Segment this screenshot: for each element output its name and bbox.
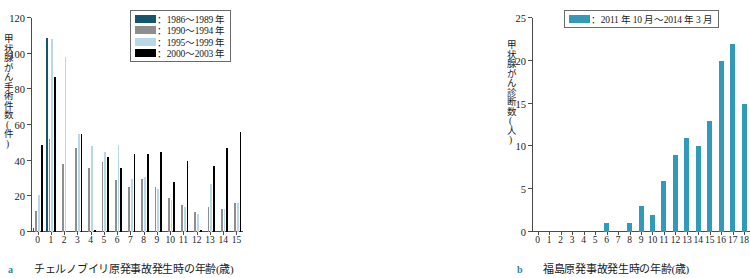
bar <box>173 182 175 232</box>
x-tick-label: 2 <box>62 235 67 245</box>
bar <box>707 121 712 232</box>
panel-tag-b: b <box>517 264 543 275</box>
x-tick-label: 5 <box>102 235 107 245</box>
y-tick <box>27 160 31 161</box>
x-tick-label: 6 <box>115 235 120 245</box>
bar <box>155 187 157 232</box>
y-tick <box>528 231 532 232</box>
bar <box>234 203 236 232</box>
y-axis-label-a: 甲状腺がん手術件数(件) <box>2 34 12 214</box>
x-tick-label: 0 <box>535 235 540 245</box>
x-tick-label: 8 <box>627 235 632 245</box>
bar <box>208 207 210 232</box>
y-tick-label: 25 <box>516 13 527 24</box>
bar <box>81 134 83 232</box>
y-tick-label: 40 <box>15 155 26 166</box>
x-tick-label: 2 <box>558 235 563 245</box>
x-tick-label: 11 <box>659 235 668 245</box>
y-tick-label: 0 <box>20 227 25 238</box>
legend-row: ：2000〜2003 年 <box>135 48 225 60</box>
y-tick <box>528 60 532 61</box>
legend-label: ：2011 年 10 月〜2014 年 3 月 <box>591 12 713 26</box>
y-tick-label: 60 <box>15 120 26 131</box>
bar <box>33 228 35 232</box>
y-tick-label: 80 <box>15 84 26 95</box>
y-tick-label: 120 <box>9 13 25 24</box>
bar <box>128 187 130 232</box>
y-tick <box>528 17 532 18</box>
legend-a: ：1986〜1989 年：1990〜1994 年：1995〜1999 年：200… <box>130 10 231 62</box>
bar <box>102 162 104 232</box>
y-axis-label-b: 甲状腺がん診断数(人) <box>505 40 515 210</box>
x-tick-label: 7 <box>128 235 133 245</box>
legend-b: ：2011 年 10 月〜2014 年 3 月 <box>564 10 719 28</box>
bar <box>41 145 43 232</box>
legend-swatch <box>135 49 156 57</box>
panel-b-fukushima: 甲状腺がん診断数(人) 0510152025012345678910111213… <box>255 0 510 278</box>
x-tick-label: 4 <box>88 235 93 245</box>
bar <box>141 179 143 233</box>
bar <box>54 77 56 232</box>
x-tick-label: 6 <box>604 235 609 245</box>
caption-text-a: チェルノブイリ原発事故発生時の年齢(歳) <box>34 260 233 276</box>
bar <box>604 223 609 232</box>
y-tick <box>27 231 31 232</box>
bar <box>200 230 202 232</box>
bar <box>120 168 122 232</box>
x-tick-label: 16 <box>717 235 727 245</box>
bar <box>91 146 93 232</box>
bar <box>224 209 226 232</box>
bar <box>696 146 701 232</box>
x-tick-label: 13 <box>682 235 692 245</box>
x-tick-label: 3 <box>75 235 80 245</box>
x-tick-label: 15 <box>232 235 242 245</box>
bar <box>187 161 189 232</box>
y-tick-label: 20 <box>516 55 527 66</box>
x-tick-label: 1 <box>49 235 54 245</box>
caption-a: a チェルノブイリ原発事故発生時の年齢(歳) <box>8 260 233 276</box>
bar <box>118 145 120 232</box>
x-tick-label: 12 <box>671 235 681 245</box>
y-tick <box>528 188 532 189</box>
y-tick <box>528 103 532 104</box>
legend-swatch <box>135 38 156 46</box>
x-tick-label: 3 <box>570 235 575 245</box>
bar <box>144 177 146 232</box>
bar <box>197 214 199 232</box>
bar <box>240 132 242 232</box>
x-tick-label: 18 <box>740 235 750 245</box>
x-tick-label: 4 <box>581 235 586 245</box>
bar <box>684 138 689 232</box>
y-tick <box>27 17 31 18</box>
y-tick <box>27 195 31 196</box>
bar <box>104 152 106 232</box>
bar <box>94 230 96 232</box>
bar <box>157 189 159 232</box>
bar <box>75 148 77 232</box>
x-tick-label: 14 <box>694 235 704 245</box>
y-tick-label: 5 <box>521 184 526 195</box>
bar <box>237 203 239 232</box>
x-tick-label: 12 <box>192 235 202 245</box>
x-tick-label: 15 <box>705 235 715 245</box>
bar <box>131 179 133 233</box>
bar <box>226 148 228 232</box>
bar <box>181 205 183 232</box>
y-tick-label: 10 <box>516 141 527 152</box>
bar <box>62 164 64 232</box>
bar <box>650 215 655 232</box>
bar <box>673 155 678 232</box>
y-axis-line-b <box>532 18 533 232</box>
bar <box>742 104 747 232</box>
y-tick <box>27 88 31 89</box>
bar <box>213 166 215 232</box>
x-tick-label: 17 <box>728 235 738 245</box>
y-tick-label: 20 <box>15 191 26 202</box>
x-tick-label: 9 <box>155 235 160 245</box>
bar <box>171 200 173 232</box>
bar <box>147 154 149 232</box>
bar <box>168 198 170 232</box>
bar <box>627 223 632 232</box>
x-tick-label: 10 <box>648 235 658 245</box>
